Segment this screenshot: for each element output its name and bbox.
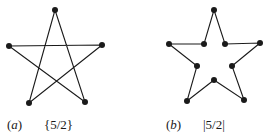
vertex-dot bbox=[6, 43, 12, 49]
vertex-dot bbox=[99, 42, 105, 48]
vertex-dot bbox=[52, 7, 58, 13]
caption-a-letter: (a) bbox=[7, 118, 22, 132]
star-outline-edges bbox=[169, 10, 260, 101]
vertex-dot bbox=[194, 63, 200, 69]
vertex-dot bbox=[166, 41, 172, 47]
vertex-dot bbox=[222, 41, 228, 47]
vertex-dot bbox=[211, 77, 217, 83]
figure-canvas bbox=[0, 0, 267, 138]
caption-b-symbol: |5/2| bbox=[203, 118, 225, 132]
vertex-dot bbox=[201, 41, 207, 47]
star-outline-figure-b bbox=[166, 7, 263, 104]
vertex-dot bbox=[26, 100, 32, 106]
vertex-dot bbox=[241, 97, 247, 103]
vertex-dot bbox=[184, 98, 190, 104]
vertex-dot bbox=[211, 7, 217, 13]
pentagram-figure-a bbox=[6, 7, 105, 106]
caption-b-letter: (b) bbox=[166, 118, 181, 132]
pentagram-edges bbox=[9, 10, 102, 103]
vertex-dot bbox=[229, 63, 235, 69]
vertex-dot bbox=[82, 99, 88, 105]
caption-a-symbol: {5/2} bbox=[44, 118, 73, 132]
vertex-dot bbox=[257, 40, 263, 46]
